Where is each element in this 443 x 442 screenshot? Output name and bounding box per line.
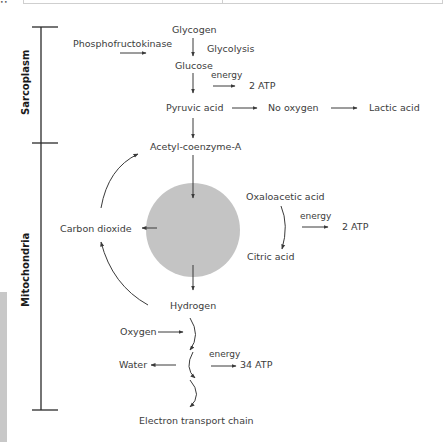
atp-label-2: 2 ATP [342,221,368,232]
node-acetyl-coa: Acetyl-coenzyme-A [150,141,241,152]
energy-label-1: energy [211,70,242,81]
region-label-mitochondria: Mitochondria [20,233,32,307]
node-glycolysis: Glycolysis [207,43,254,54]
node-electron-transport-chain: Electron transport chain [139,415,254,426]
node-glycogen: Glycogen [172,24,217,35]
node-citric-acid: Citric acid [247,251,295,262]
node-lactic-acid: Lactic acid [369,102,420,113]
node-water: Water [119,359,147,370]
node-carbon-dioxide: Carbon dioxide [60,223,132,234]
node-pyruvic-acid: Pyruvic acid [166,102,224,113]
node-no-oxygen: No oxygen [268,102,319,113]
node-oxaloacetic-acid: Oxaloacetic acid [246,191,325,202]
energy-label-2: energy [300,211,331,222]
node-oxygen: Oxygen [120,326,157,337]
energy-label-3: energy [209,349,240,360]
atp-label-3: 34 ATP [240,359,272,370]
node-hydrogen: Hydrogen [170,300,216,311]
node-phosphofructokinase: Phosphofructokinase [73,38,172,49]
region-brackets [32,27,58,410]
node-glucose: Glucose [175,60,213,71]
region-label-sarcoplasm: Sarcoplasm [20,55,32,115]
atp-label-1: 2 ATP [249,80,275,91]
